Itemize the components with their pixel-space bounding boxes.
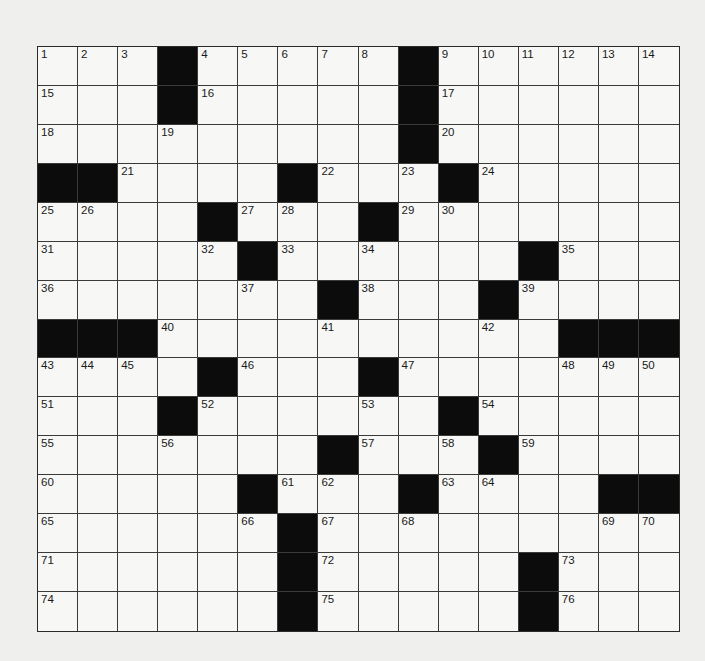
grid-cell[interactable]	[238, 397, 278, 436]
grid-cell[interactable]: 1	[38, 47, 78, 86]
grid-cell[interactable]	[78, 592, 118, 631]
grid-cell[interactable]	[599, 242, 639, 281]
grid-cell[interactable]	[278, 281, 318, 320]
grid-cell[interactable]: 58	[439, 436, 479, 475]
grid-cell[interactable]: 30	[439, 203, 479, 242]
grid-cell[interactable]	[278, 436, 318, 475]
grid-cell[interactable]	[78, 281, 118, 320]
grid-cell[interactable]	[198, 592, 238, 631]
grid-cell[interactable]	[599, 436, 639, 475]
grid-cell[interactable]: 16	[198, 86, 238, 125]
grid-cell[interactable]: 14	[639, 47, 679, 86]
grid-cell[interactable]	[519, 125, 559, 164]
grid-cell[interactable]	[359, 553, 399, 592]
grid-cell[interactable]	[599, 397, 639, 436]
grid-cell[interactable]	[519, 397, 559, 436]
grid-cell[interactable]: 37	[238, 281, 278, 320]
grid-cell[interactable]	[639, 553, 679, 592]
grid-cell[interactable]: 59	[519, 436, 559, 475]
grid-cell[interactable]	[639, 592, 679, 631]
grid-cell[interactable]: 44	[78, 358, 118, 397]
grid-cell[interactable]	[238, 125, 278, 164]
grid-cell[interactable]: 73	[559, 553, 599, 592]
grid-cell[interactable]: 45	[118, 358, 158, 397]
grid-cell[interactable]: 65	[38, 514, 78, 553]
grid-cell[interactable]	[639, 125, 679, 164]
grid-cell[interactable]: 63	[439, 475, 479, 514]
grid-cell[interactable]	[439, 358, 479, 397]
grid-cell[interactable]	[519, 475, 559, 514]
grid-cell[interactable]: 34	[359, 242, 399, 281]
grid-cell[interactable]: 11	[519, 47, 559, 86]
grid-cell[interactable]	[399, 553, 439, 592]
grid-cell[interactable]	[359, 86, 399, 125]
grid-cell[interactable]	[118, 514, 158, 553]
grid-cell[interactable]: 48	[559, 358, 599, 397]
grid-cell[interactable]	[639, 281, 679, 320]
grid-cell[interactable]: 52	[198, 397, 238, 436]
grid-cell[interactable]: 24	[479, 164, 519, 203]
grid-cell[interactable]	[439, 320, 479, 359]
grid-cell[interactable]	[559, 203, 599, 242]
grid-cell[interactable]	[519, 320, 559, 359]
grid-cell[interactable]	[238, 86, 278, 125]
grid-cell[interactable]	[118, 125, 158, 164]
grid-cell[interactable]: 67	[318, 514, 358, 553]
grid-cell[interactable]	[78, 86, 118, 125]
grid-cell[interactable]	[479, 125, 519, 164]
grid-cell[interactable]: 76	[559, 592, 599, 631]
grid-cell[interactable]	[158, 553, 198, 592]
grid-cell[interactable]	[238, 592, 278, 631]
grid-cell[interactable]: 68	[399, 514, 439, 553]
grid-cell[interactable]	[78, 242, 118, 281]
grid-cell[interactable]	[78, 436, 118, 475]
grid-cell[interactable]: 69	[599, 514, 639, 553]
grid-cell[interactable]: 53	[359, 397, 399, 436]
grid-cell[interactable]	[238, 436, 278, 475]
grid-cell[interactable]: 13	[599, 47, 639, 86]
grid-cell[interactable]	[158, 203, 198, 242]
grid-cell[interactable]	[158, 514, 198, 553]
grid-cell[interactable]	[359, 164, 399, 203]
grid-cell[interactable]: 74	[38, 592, 78, 631]
grid-cell[interactable]	[318, 86, 358, 125]
grid-cell[interactable]: 33	[278, 242, 318, 281]
grid-cell[interactable]: 18	[38, 125, 78, 164]
grid-cell[interactable]	[519, 514, 559, 553]
grid-cell[interactable]	[639, 242, 679, 281]
grid-cell[interactable]	[559, 436, 599, 475]
grid-cell[interactable]: 8	[359, 47, 399, 86]
grid-cell[interactable]: 12	[559, 47, 599, 86]
grid-cell[interactable]: 47	[399, 358, 439, 397]
grid-cell[interactable]	[238, 164, 278, 203]
grid-cell[interactable]	[439, 514, 479, 553]
grid-cell[interactable]	[639, 397, 679, 436]
grid-cell[interactable]: 46	[238, 358, 278, 397]
grid-cell[interactable]: 75	[318, 592, 358, 631]
grid-cell[interactable]	[599, 164, 639, 203]
grid-cell[interactable]	[158, 242, 198, 281]
grid-cell[interactable]	[278, 358, 318, 397]
grid-cell[interactable]	[118, 397, 158, 436]
grid-cell[interactable]: 19	[158, 125, 198, 164]
grid-cell[interactable]	[559, 164, 599, 203]
grid-cell[interactable]	[78, 475, 118, 514]
grid-cell[interactable]: 72	[318, 553, 358, 592]
grid-cell[interactable]	[639, 203, 679, 242]
grid-cell[interactable]	[318, 397, 358, 436]
grid-cell[interactable]: 70	[639, 514, 679, 553]
grid-cell[interactable]: 62	[318, 475, 358, 514]
grid-cell[interactable]	[479, 86, 519, 125]
grid-cell[interactable]	[599, 553, 639, 592]
grid-cell[interactable]	[399, 592, 439, 631]
grid-cell[interactable]	[78, 514, 118, 553]
grid-cell[interactable]: 55	[38, 436, 78, 475]
grid-cell[interactable]	[519, 203, 559, 242]
grid-cell[interactable]: 25	[38, 203, 78, 242]
grid-cell[interactable]	[118, 553, 158, 592]
grid-cell[interactable]: 29	[399, 203, 439, 242]
grid-cell[interactable]	[278, 125, 318, 164]
grid-cell[interactable]	[78, 125, 118, 164]
grid-cell[interactable]: 38	[359, 281, 399, 320]
grid-cell[interactable]	[519, 358, 559, 397]
